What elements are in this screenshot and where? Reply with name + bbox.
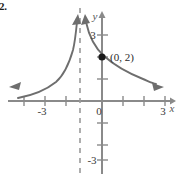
point-marker-0-2 (98, 53, 105, 60)
left-branch-path (18, 22, 77, 98)
x-axis-label: x (169, 102, 175, 114)
graph-canvas: y x -3 0 3 3 -3 (0, 2) (0, 0, 176, 174)
y-axis-arrowhead (99, 11, 106, 18)
left-branch-arrow-left (9, 82, 21, 90)
right-branch-arrow-right (152, 83, 164, 91)
x-tick-label-negative-3: -3 (37, 105, 47, 117)
y-axis-label: y (92, 10, 98, 22)
curve-left-branch (9, 14, 81, 98)
y-tick-label-negative-3: -3 (87, 154, 97, 166)
point-label-0-2: (0, 2) (110, 51, 134, 64)
x-tick-label-positive-3: 3 (160, 105, 166, 117)
right-branch-arrow-up (81, 14, 90, 25)
math-figure: 2. (0, 0, 176, 174)
x-tick-label-origin: 0 (96, 105, 102, 117)
y-tick-label-positive-3: 3 (90, 29, 96, 41)
